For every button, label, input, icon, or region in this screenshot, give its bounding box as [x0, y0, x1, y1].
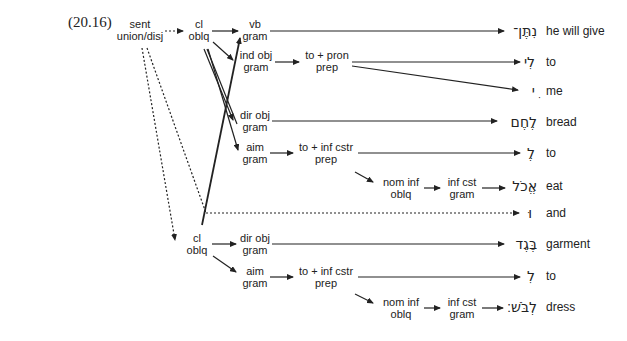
gloss: to [546, 55, 556, 69]
hebrew-word: בֶּגֶד [515, 236, 537, 252]
node-nom-inf-oblq-1: nom infoblq [383, 176, 419, 200]
hebrew-word: נִתֶּן־ [513, 23, 537, 39]
node-dir-obj-gram-1: dir objgram [240, 109, 270, 133]
hebrew-word: אֱכֹל [512, 178, 537, 194]
node-nom-inf-oblq-2: nom infoblq [383, 296, 419, 320]
gloss: garment [546, 237, 590, 251]
gloss: me [546, 84, 563, 98]
hebrew-word: לְבֹּשׁ׃ [507, 299, 537, 315]
node-aim-gram-1: aimgram [242, 141, 267, 165]
gloss: eat [546, 179, 563, 193]
node-inf-cst-gram-1: inf cstgram [448, 176, 477, 200]
hebrew-word: לִי [524, 54, 535, 70]
node-aim-gram-2: aimgram [242, 265, 267, 289]
gloss: and [546, 206, 566, 220]
hebrew-word: לֶ [527, 145, 535, 161]
node-dir-obj-gram-2: dir objgram [240, 232, 270, 256]
node-to-pron-prep: to + pronprep [305, 49, 349, 73]
node-to-inf-cstr-prep-2: to + inf cstrprep [299, 265, 353, 289]
gloss: to [546, 146, 556, 160]
node-ind-obj-gram: ind objgram [240, 49, 272, 73]
node-to-inf-cstr-prep-1: to + inf cstrprep [299, 141, 353, 165]
node-vb-gram: vbgram [242, 18, 267, 42]
node-inf-cst-gram-2: inf cstgram [448, 296, 477, 320]
gloss: bread [546, 115, 577, 129]
gloss: dress [546, 300, 575, 314]
node-cl-oblq-2: cloblq [187, 232, 208, 256]
hebrew-word: לִ [527, 268, 535, 284]
hebrew-word: וּ [528, 205, 532, 221]
node-sent-union-disj: sentunion/disj [117, 18, 163, 42]
hebrew-word: לֶחֶם [511, 114, 537, 130]
gloss: to [546, 269, 556, 283]
gloss: he will give [546, 24, 605, 38]
node-cl-oblq-1: cloblq [189, 18, 210, 42]
hebrew-word: ִי [532, 83, 535, 99]
